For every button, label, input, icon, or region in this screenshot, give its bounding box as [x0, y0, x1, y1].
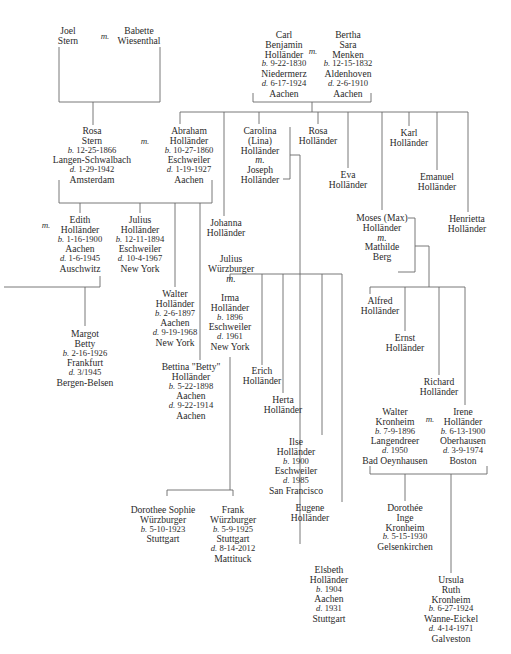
person-name-line: Holländer: [418, 182, 456, 192]
person-walter-h[interactable]: WalterHolländerb. 2-6-1897Aachend. 9-19-…: [153, 289, 197, 348]
person-emanuel[interactable]: EmanuelHolländer: [418, 172, 456, 192]
person-bettina[interactable]: Bettina "Betty"Holländerb. 5-22-1898Aach…: [162, 362, 221, 421]
person-abraham[interactable]: AbrahamHolländerb. 10-27-1860Eschweilerd…: [165, 126, 214, 185]
person-dorothee-k[interactable]: DorothéeIngeKronheimb. 5-15-1930Gelsenki…: [377, 503, 432, 552]
person-ilse[interactable]: IlseHolländerb. 1900Eschweilerd. 1985San…: [269, 437, 323, 496]
person-moses[interactable]: Moses (Max)Holländerm.MathildeBerg: [356, 213, 407, 262]
person-name-line: Boston: [440, 456, 486, 466]
person-julius-h[interactable]: JuliusHolländerb. 12-11-1894Eschweilerd.…: [116, 215, 164, 274]
person-name-line: Holländer: [329, 180, 367, 190]
person-name-line: Bad Oeynhausen: [362, 456, 427, 466]
person-ursula[interactable]: UrsulaRuthKronheimb. 6-27-1924Wanne-Eick…: [424, 575, 478, 644]
person-edith[interactable]: EdithHolländerb. 1-16-1900Aachend. 1-6-1…: [58, 215, 102, 274]
person-name-line: Holländer: [243, 376, 281, 386]
family-tree-diagram: JoelSternBabetteWiesenthalCarlBenjaminHo…: [0, 0, 511, 654]
person-irene[interactable]: IreneHolländerb. 6-13-1900Oberhausend. 3…: [440, 407, 486, 466]
person-elsbeth[interactable]: ElsbethHolländerb. 1904Aachend. 1931Stut…: [310, 565, 348, 624]
person-name-line: Mattituck: [210, 554, 256, 564]
person-name-line: Berg: [356, 252, 407, 262]
person-name-line: Holländer: [390, 138, 428, 148]
person-erich[interactable]: ErichHolländer: [243, 366, 281, 386]
person-richard[interactable]: RichardHolländer: [420, 377, 458, 397]
person-herta[interactable]: HertaHolländer: [264, 395, 302, 415]
person-name-line: Holländer: [241, 175, 279, 185]
person-karl[interactable]: KarlHolländer: [390, 128, 428, 148]
person-irma[interactable]: IrmaHolländerb. 1896Eschweilerd. 1961New…: [209, 293, 252, 352]
person-name-line: New York: [153, 338, 197, 348]
person-name-line: Holländer: [420, 387, 458, 397]
person-babette[interactable]: BabetteWiesenthal: [118, 26, 161, 46]
person-eugene[interactable]: EugeneHolländer: [291, 503, 329, 523]
person-name-line: Aachen: [162, 411, 221, 421]
person-name-line: Holländer: [361, 306, 399, 316]
person-name-line: Stern: [58, 36, 78, 46]
person-name-line: New York: [116, 264, 164, 274]
marriage-marker: m.: [42, 220, 51, 230]
person-margot[interactable]: MargotBettyb. 2-16-1926Frankfurtd. 3/194…: [57, 329, 114, 388]
person-name-line: New York: [209, 342, 252, 352]
marriage-marker: m.: [426, 414, 435, 424]
person-name-line: Aachen: [324, 89, 373, 99]
person-name-line: Gelsenkirchen: [377, 542, 432, 552]
person-name-line: Bergen-Belsen: [57, 378, 114, 388]
marriage-marker: m.: [309, 46, 318, 56]
person-rosa-stern[interactable]: RosaSternb. 12-25-1866Langen-Schwalbachd…: [53, 126, 131, 185]
person-johanna[interactable]: JohannaHolländer: [207, 218, 245, 238]
person-dorothee-w[interactable]: Dorothee SophieWürzburgerb. 5-10-1923Stu…: [131, 505, 196, 544]
person-name-line: Aachen: [165, 175, 214, 185]
person-joel[interactable]: JoelStern: [58, 26, 78, 46]
person-henrietta[interactable]: HenriettaHolländer: [448, 214, 486, 234]
person-carl[interactable]: CarlBenjaminHolländerb. 9-22-1830Niederm…: [261, 30, 306, 99]
marriage-marker: m.: [101, 31, 110, 41]
person-name-line: Holländer: [207, 228, 245, 238]
marriage-marker: m.: [141, 136, 150, 146]
marriage-marker: m.: [208, 274, 254, 284]
person-name-line: Holländer: [386, 343, 424, 353]
person-name-line: San Francisco: [269, 486, 323, 496]
person-name-line: Stuttgart: [131, 534, 196, 544]
person-name-line: Stuttgart: [310, 614, 348, 624]
person-name-line: Auschwitz: [58, 264, 102, 274]
person-rosa-h[interactable]: RosaHolländer: [299, 126, 337, 146]
person-name-line: Galveston: [424, 634, 478, 644]
person-name-line: Wiesenthal: [118, 36, 161, 46]
person-alfred[interactable]: AlfredHolländer: [361, 296, 399, 316]
person-walter-k[interactable]: WalterKronheimb. 7-9-1896Langendreerd. 1…: [362, 407, 427, 466]
person-carolina[interactable]: Carolina(Lina)Holländerm.JosephHolländer: [241, 126, 279, 185]
person-name-line: Aachen: [261, 89, 306, 99]
person-name-line: Holländer: [448, 224, 486, 234]
person-name-line: Holländer: [264, 405, 302, 415]
person-eva[interactable]: EvaHolländer: [329, 170, 367, 190]
person-julius-w[interactable]: JuliusWürzburgerm.: [208, 254, 254, 283]
person-name-line: Amsterdam: [53, 175, 131, 185]
person-name-line: Holländer: [299, 136, 337, 146]
person-bertha[interactable]: BerthaSaraMenkenb. 12-15-1832Aldenhovend…: [324, 30, 373, 99]
person-frank[interactable]: FrankWürzburgerb. 5-9-1925Stuttgartd. 8-…: [210, 505, 256, 564]
person-ernst[interactable]: ErnstHolländer: [386, 333, 424, 353]
person-name-line: Holländer: [291, 513, 329, 523]
